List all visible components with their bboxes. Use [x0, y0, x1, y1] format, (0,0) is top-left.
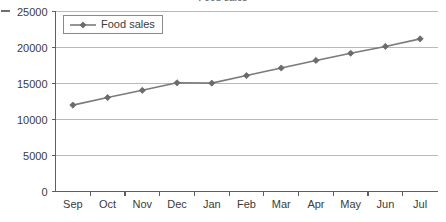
data-point-marker[interactable]: [313, 57, 319, 63]
data-point-marker[interactable]: [70, 102, 76, 108]
data-point-marker[interactable]: [209, 80, 215, 86]
y-tick-label-0: 0: [41, 186, 47, 198]
x-tick-label-jul: Jul: [413, 198, 427, 210]
x-tick-label-dec: Dec: [167, 198, 187, 210]
x-tick-label-feb: Feb: [237, 198, 256, 210]
y-tick-label-20000: 20000: [17, 42, 48, 54]
x-tick-label-sep: Sep: [63, 198, 83, 210]
data-point-marker[interactable]: [348, 50, 354, 56]
x-tick-label-apr: Apr: [307, 198, 324, 210]
x-tick-label-oct: Oct: [99, 198, 116, 210]
chart-legend[interactable]: Food sales: [63, 15, 163, 34]
x-tick-label-may: May: [340, 198, 361, 210]
legend-diamond-marker-icon: [80, 21, 86, 27]
y-tick-label-25000: 25000: [17, 6, 48, 18]
data-point-marker[interactable]: [382, 43, 388, 49]
x-tick-label-mar: Mar: [272, 198, 291, 210]
x-tick-label-nov: Nov: [133, 198, 153, 210]
x-axis: SepOctNovDecJanFebMarAprMayJunJul: [56, 192, 438, 210]
legend-line-marker-icon: [70, 20, 96, 30]
y-axis: 0500010000150002000025000: [17, 6, 56, 198]
x-tick-label-jan: Jan: [203, 198, 221, 210]
data-point-marker[interactable]: [104, 94, 110, 100]
data-point-marker[interactable]: [174, 80, 180, 86]
data-point-marker[interactable]: [417, 36, 423, 42]
line-chart-figure: Food sales 0500010000150002000025000 Sep…: [0, 0, 446, 222]
data-point-marker[interactable]: [243, 72, 249, 78]
data-point-marker[interactable]: [278, 65, 284, 71]
data-series-group: [70, 36, 423, 108]
y-tick-label-10000: 10000: [17, 114, 48, 126]
legend-label-food-sales: Food sales: [101, 19, 155, 30]
x-tick-label-jun: Jun: [377, 198, 395, 210]
y-tick-label-15000: 15000: [17, 78, 48, 90]
y-tick-label-5000: 5000: [23, 150, 47, 162]
data-point-marker[interactable]: [139, 87, 145, 93]
